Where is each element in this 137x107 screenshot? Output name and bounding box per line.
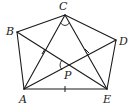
segment-bc	[17, 15, 65, 32]
label-c: C	[59, 0, 68, 13]
segment-de	[107, 40, 116, 89]
geometry-diagram: A B C D E P	[0, 0, 137, 107]
label-a: A	[18, 93, 27, 106]
segment-ab	[17, 32, 24, 89]
label-e: E	[102, 93, 111, 106]
label-d: D	[118, 35, 128, 48]
label-b: B	[5, 25, 14, 38]
label-p: P	[63, 69, 72, 82]
angle-marks	[60, 23, 69, 70]
angle-arc-c	[61, 23, 70, 26]
